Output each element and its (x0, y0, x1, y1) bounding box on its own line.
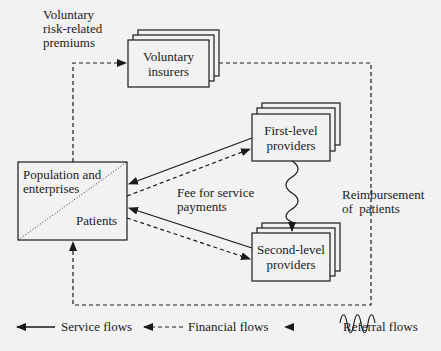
premiums-line1: Voluntary (43, 8, 102, 22)
legend-referral-arrow-icon (284, 323, 294, 331)
population-line2: enterprises (23, 182, 101, 196)
insurers-line2: insurers (128, 64, 209, 79)
legend-service-label: Service flows (61, 320, 132, 334)
population-enterprises-label: Population and enterprises (23, 168, 101, 196)
fee-line2: payments (177, 200, 254, 214)
service-flow-first-level (129, 138, 252, 184)
referral-flow (286, 161, 298, 231)
fee-flow-second-level (127, 218, 250, 259)
legend-financial-label: Financial flows (188, 320, 269, 334)
premiums-line3: premiums (43, 36, 102, 50)
patients-label: Patients (76, 214, 117, 228)
second-level-line1: Second-level (252, 242, 330, 257)
second-level-label: Second-level providers (252, 242, 330, 272)
insurers-line1: Voluntary (128, 49, 209, 64)
premiums-line2: risk-related (43, 22, 102, 36)
population-line1: Population and (23, 168, 101, 182)
reimbursement-line2: of patients (342, 202, 424, 216)
premiums-label: Voluntary risk-related premiums (43, 8, 102, 50)
fee-for-service-label: Fee for service payments (177, 186, 254, 214)
reimbursement-line1: Reimbursement (342, 188, 424, 202)
first-level-line2: providers (252, 138, 330, 153)
second-level-line2: providers (252, 257, 330, 272)
voluntary-insurers-label: Voluntary insurers (128, 49, 209, 79)
legend-referral-label: Referral flows (343, 320, 418, 334)
fee-line1: Fee for service (177, 186, 254, 200)
first-level-label: First-level providers (252, 123, 330, 153)
reimbursement-label: Reimbursement of patients (342, 188, 424, 216)
premiums-financial-flow (73, 63, 126, 162)
service-flow-second-level (129, 208, 252, 248)
first-level-line1: First-level (252, 123, 330, 138)
